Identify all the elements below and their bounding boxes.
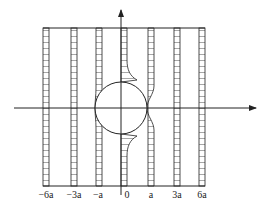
- label-plus-6a: 6a: [197, 189, 207, 200]
- strip-plus-6a: [199, 28, 205, 186]
- strip-center-upper: [121, 28, 137, 82]
- label-minus-a: −a: [93, 189, 104, 200]
- strip-minus-6a: [43, 28, 49, 186]
- label-plus-3a: 3a: [172, 189, 182, 200]
- flow-diagram: −6a −3a −a 0 a 3a 6a: [0, 0, 268, 212]
- label-zero: 0: [125, 189, 130, 200]
- label-minus-6a: −6a: [38, 189, 54, 200]
- strip-center-lower: [121, 134, 137, 186]
- label-minus-3a: −3a: [66, 189, 82, 200]
- strip-plus-3a: [174, 28, 180, 186]
- strip-plus-a: [147, 28, 154, 186]
- label-a: a: [149, 189, 154, 200]
- strip-minus-3a: [71, 28, 77, 186]
